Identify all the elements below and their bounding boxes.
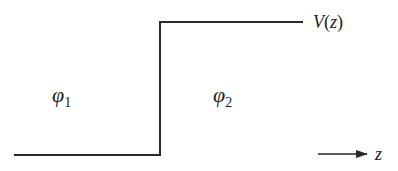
step-potential-diagram: V(z) φ1 φ2 z [0,0,398,171]
diagram-svg: V(z) φ1 φ2 z [0,0,398,171]
region-left-label: φ1 [52,82,71,110]
z-axis-label: z [374,144,382,164]
potential-label: V(z) [313,12,343,33]
region-right-label: φ2 [213,82,232,110]
